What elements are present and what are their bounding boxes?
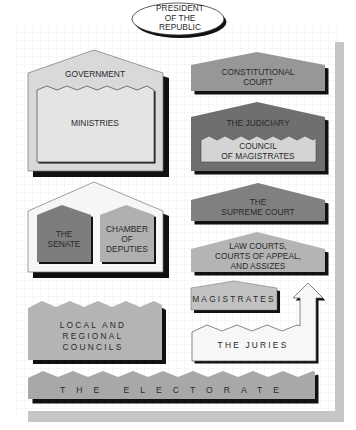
juries-label: THE JURIES [218, 340, 289, 350]
ministries-box: MINISTRIES [37, 86, 156, 164]
electorate-label: THE ELECTORATE [60, 385, 290, 395]
panel-shadow-bottom [28, 411, 344, 422]
local-councils-line1: LOCAL AND [60, 320, 127, 330]
deputies-line3: DEPUTIES [106, 244, 148, 254]
council-line1: COUNCIL [239, 141, 277, 151]
government-block: GOVERNMENT MINISTRIES [28, 50, 169, 177]
judiciary-label: THE JUDICIARY [226, 118, 290, 128]
deputies-line1: CHAMBER [106, 224, 148, 234]
chamber-of-deputies-box: CHAMBER OF DEPUTIES [100, 205, 156, 264]
magistrates-label: MAGISTRATES [192, 294, 276, 304]
council-of-magistrates-box: COUNCIL OF MAGISTRATES [201, 136, 316, 162]
senate-line1: THE [56, 229, 73, 239]
president-line3: REPUBLIC [159, 22, 201, 32]
law-courts-line2: COURTS OF APPEAL, [215, 251, 301, 261]
constitutional-line1: CONSTITUTIONAL [221, 67, 294, 77]
local-councils-line2: REGIONAL [63, 331, 124, 341]
deputies-line2: OF [121, 234, 133, 244]
council-line2: OF MAGISTRATES [221, 151, 295, 161]
supreme-line1: THE [250, 197, 267, 207]
president-line1: PRESIDENT [156, 3, 204, 13]
constitutional-line2: COURT [243, 77, 273, 87]
supreme-line2: SUPREME COURT [221, 207, 294, 217]
diagram-canvas: GOVERNMENT MINISTRIES THE SENATE CHAMBER… [0, 0, 356, 430]
senate-line2: SENATE [48, 239, 81, 249]
local-councils-block: LOCAL AND REGIONAL COUNCILS [28, 301, 166, 364]
government-label: GOVERNMENT [65, 69, 125, 79]
law-courts-line3: AND ASSIZES [231, 261, 286, 271]
local-councils-line3: COUNCILS [63, 342, 124, 352]
senate-box: THE SENATE [37, 205, 93, 264]
law-courts-line1: LAW COURTS, [229, 241, 287, 251]
panel-shadow-right [335, 42, 344, 422]
electorate-block: THE ELECTORATE [28, 371, 319, 404]
ministries-label: MINISTRIES [71, 118, 119, 128]
